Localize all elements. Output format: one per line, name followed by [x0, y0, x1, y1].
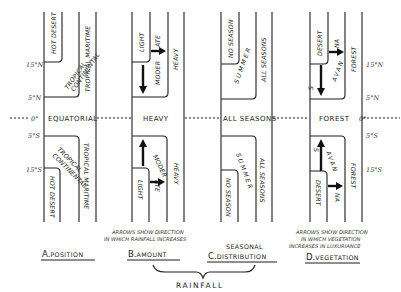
zone-moderate-south-a: MODER	[152, 153, 169, 178]
zone-desert-north: DESERT	[316, 29, 323, 56]
zone-forest-center: FOREST	[319, 115, 350, 123]
zone-hot-desert-north: HOT DESERT	[50, 11, 57, 54]
vegetation-note-3: INCREASES IN LUXURIANCE	[289, 243, 361, 249]
zone-heavy-south: HEAVY	[173, 163, 180, 186]
lat-0-right: 0°	[359, 115, 366, 123]
lat-15n-right: 15°N	[366, 61, 384, 69]
lat-5n-right: 5°N	[366, 94, 379, 102]
zone-moderate-north-b: ATE	[154, 35, 161, 48]
zone-savanna-north-b: AVAN	[330, 59, 345, 84]
zone-savanna-south-c: NA	[334, 193, 341, 202]
zone-all-seasons-center: ALL SEASONS	[223, 115, 277, 123]
panel-c-title: C.DISTRIBUTION	[208, 251, 267, 261]
zone-forest-south: FOREST	[350, 163, 357, 190]
lat-5n: 5°N	[28, 94, 41, 102]
panel-a-title: A.POSITION	[42, 249, 84, 259]
zone-savanna-north-a: S	[307, 86, 314, 90]
zone-heavy-north: HEAVY	[172, 47, 179, 70]
zone-savanna-north-c: NA	[333, 39, 340, 48]
zone-savanna-south-b: AVAN	[325, 149, 340, 174]
zone-no-season-north: NO SEASON	[227, 19, 234, 58]
zone-equatorial: EQUATORIAL	[48, 115, 98, 123]
rainfall-label: RAINFALL	[176, 281, 224, 290]
zone-savanna-south-a: S	[313, 148, 320, 152]
vegetation-note-2: IN WHICH VEGETATION	[301, 236, 361, 242]
zone-desert-south: DESERT	[315, 180, 322, 207]
zone-all-seasons-south: ALL SEASONS	[259, 157, 266, 203]
panel-b-title: B.AMOUNT	[128, 249, 167, 259]
zone-moderate-north-a: MODER	[154, 61, 161, 85]
lat-5s: 5°S	[28, 132, 40, 140]
zone-no-season-south: NO SEASON	[225, 178, 232, 217]
zone-summer-north: SUMMER	[232, 45, 252, 84]
zone-all-seasons-north: ALL SEASONS	[260, 37, 267, 83]
lat-0: 0°	[31, 115, 38, 123]
lat-5s-right: 5°S	[366, 132, 378, 140]
zone-light-north: LIGHT	[138, 31, 145, 52]
rainfall-brace: RAINFALL	[153, 265, 255, 290]
panel-seasonal-distribution: NO SEASON SUMMER ALL SEASONS ALL SEASONS…	[207, 12, 277, 262]
vegetation-note-1: ARROWS SHOW DIRECTION	[295, 229, 368, 235]
climate-zones-diagram: 15°N 5°N 0° 5°S 15°S 15°N 5°N 0° 5°S 15°…	[0, 0, 401, 292]
amount-note-1: ARROWS SHOW DIRECTION	[111, 229, 184, 235]
left-latitude-labels: 15°N 5°N 0° 5°S 15°S	[26, 61, 44, 174]
lat-15n: 15°N	[26, 61, 44, 69]
panel-amount: LIGHT ATE MODER HEAVY HEAVY MODER ATE LI…	[104, 12, 187, 260]
zone-light-south: LIGHT	[137, 180, 144, 201]
zone-heavy-center: HEAVY	[143, 115, 169, 123]
panel-position: HOT DESERT TROPICAL CONTINENTAL TROPICAL…	[41, 11, 101, 260]
zone-tropical-maritime-south: TROPICAL MARITIME	[83, 143, 90, 209]
panel-vegetation: DESERT NA AVAN S FOREST FOREST S AVAN NA…	[289, 12, 368, 263]
panel-d-title: D.VEGETATION	[306, 252, 359, 262]
zone-tropical-maritime-north: TROPICAL MARITIME	[84, 26, 91, 92]
lat-15s: 15°S	[26, 166, 43, 174]
zone-forest-north: FOREST	[350, 45, 357, 72]
amount-note-2: IN WHICH RAINFALL INCREASES	[104, 236, 187, 242]
lat-15s-right: 15°S	[366, 166, 383, 174]
zone-hot-desert-south: HOT DESERT	[49, 176, 56, 219]
panel-c-title-top: SEASONAL	[226, 243, 263, 250]
